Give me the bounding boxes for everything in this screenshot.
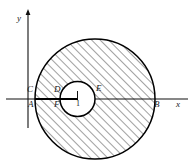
y-axis-label: y (17, 14, 21, 23)
point-label-D: D (54, 85, 61, 94)
point-label-B: B (154, 100, 160, 109)
point-label-A: A (28, 100, 34, 109)
point-label-C: C (27, 85, 33, 94)
point-label-E: E (96, 84, 102, 93)
value-label-1: 1 (76, 100, 80, 108)
geometry-figure: y x C A D F 1 E B (0, 0, 192, 165)
point-label-F: F (54, 100, 60, 109)
x-axis-label: x (176, 100, 180, 109)
